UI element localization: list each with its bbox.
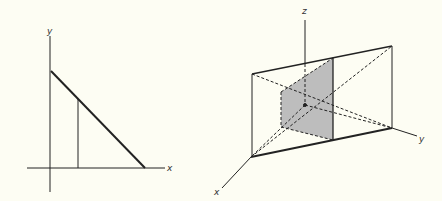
left-x-label: x — [166, 163, 173, 173]
right-x-label: x — [213, 187, 220, 197]
right-z-label: z — [301, 6, 307, 16]
x-axis — [222, 157, 251, 188]
origin-point — [304, 104, 307, 107]
hypotenuse-line — [51, 71, 145, 168]
y-axis — [392, 128, 417, 136]
left-figure — [27, 36, 165, 192]
left-y-label: y — [46, 26, 53, 36]
right-figure — [222, 20, 417, 188]
diagram-canvas: y x z y x — [0, 0, 442, 201]
right-y-label: y — [418, 134, 425, 144]
